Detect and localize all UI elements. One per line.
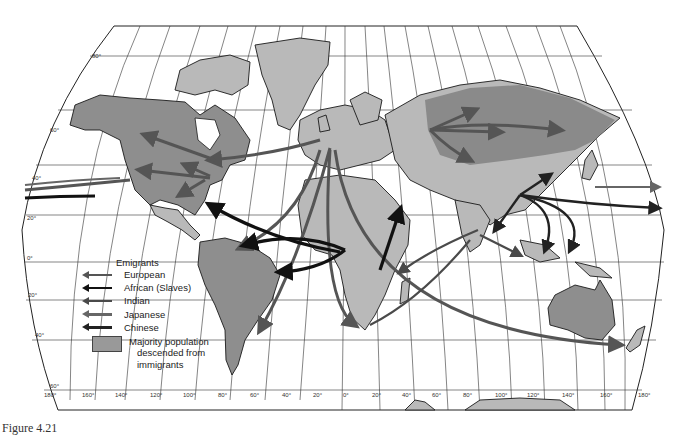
south-america	[198, 238, 280, 375]
lon-label: 180°	[44, 392, 57, 398]
southeast-asia-islands	[520, 240, 560, 262]
legend-area-label: Majority population descended from immig…	[129, 336, 209, 371]
canadian-arctic-islands	[175, 55, 250, 95]
lon-label: 140°	[562, 392, 575, 398]
legend-area-line: immigrants	[129, 359, 209, 371]
north-america	[70, 95, 250, 215]
lat-label: 40°	[35, 332, 45, 338]
majority-population-swatch	[92, 336, 122, 352]
legend-item-european: European	[82, 268, 209, 281]
legend-item-african: African (Slaves)	[82, 281, 209, 294]
japan	[582, 150, 598, 180]
lat-label: 40°	[32, 175, 42, 181]
chinese-arrow-icon	[82, 323, 112, 331]
lat-label: 20°	[28, 292, 38, 298]
lon-label: 60°	[432, 392, 442, 398]
australia	[548, 280, 615, 340]
lon-label: 160°	[600, 392, 613, 398]
lon-label: 120°	[150, 392, 163, 398]
legend: European African (Slaves) Indian Japanes…	[82, 268, 209, 370]
legend-label: Chinese	[124, 322, 159, 333]
indian-arrow-icon	[82, 297, 112, 305]
lon-label: 80°	[463, 392, 473, 398]
antarctica-east	[405, 400, 435, 410]
legend-label: European	[124, 269, 165, 280]
japanese-arrow-icon	[82, 310, 112, 318]
lon-label: 100°	[495, 392, 508, 398]
lon-label: 180°	[638, 392, 651, 398]
lat-label: 20°	[27, 215, 37, 221]
legend-item-japanese: Japanese	[82, 308, 209, 321]
longitude-tick-labels: 180° 160° 140° 120° 100° 80° 60° 40° 20°…	[44, 392, 651, 398]
african-arrow-icon	[82, 284, 112, 292]
lat-label: 0°	[27, 255, 33, 261]
european-arrow-icon	[82, 271, 112, 279]
lon-label: 100°	[183, 392, 196, 398]
legend-label: Indian	[124, 295, 150, 306]
legend-label: African (Slaves)	[124, 282, 191, 293]
lat-label: 60°	[50, 127, 60, 133]
lat-label: 80°	[92, 53, 102, 59]
figure-caption: Figure 4.21	[2, 421, 57, 435]
new-zealand	[626, 326, 645, 352]
new-guinea	[575, 262, 612, 278]
lon-label: 20°	[372, 392, 382, 398]
lon-label: 160°	[82, 392, 95, 398]
lon-label: 140°	[115, 392, 128, 398]
legend-area-line: Majority population	[129, 336, 209, 348]
lon-label: 0°	[343, 392, 349, 398]
lon-label: 40°	[282, 392, 292, 398]
legend-label: Japanese	[124, 309, 165, 320]
legend-item-indian: Indian	[82, 294, 209, 307]
lon-label: 60°	[250, 392, 260, 398]
europe	[298, 105, 395, 170]
lon-label: 120°	[527, 392, 540, 398]
lon-label: 40°	[402, 392, 412, 398]
lat-label: 60°	[50, 383, 60, 389]
legend-item-chinese: Chinese	[82, 321, 209, 334]
legend-area-line: descended from	[129, 347, 209, 359]
legend-item-majority-population: Majority population descended from immig…	[82, 336, 209, 371]
antarctica-east-2	[465, 398, 575, 410]
lon-label: 20°	[313, 392, 323, 398]
lon-label: 80°	[218, 392, 228, 398]
legend-title: Emigrants	[116, 257, 159, 268]
